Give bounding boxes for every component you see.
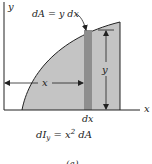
moment-equation: dIy = x2 dA — [36, 128, 92, 142]
figure-caption: (a) — [66, 159, 79, 164]
height-label: y — [101, 64, 108, 75]
distance-label: x — [42, 77, 48, 88]
element-label: dA = y dx — [32, 8, 79, 19]
width-label: dx — [82, 113, 94, 124]
x-axis-label: x — [144, 103, 150, 114]
area-moment-diagram: y x dA = y dx y x dx dIy = x2 dA (a) — [0, 0, 152, 164]
y-axis-label: y — [7, 1, 14, 12]
differential-strip — [84, 30, 92, 110]
